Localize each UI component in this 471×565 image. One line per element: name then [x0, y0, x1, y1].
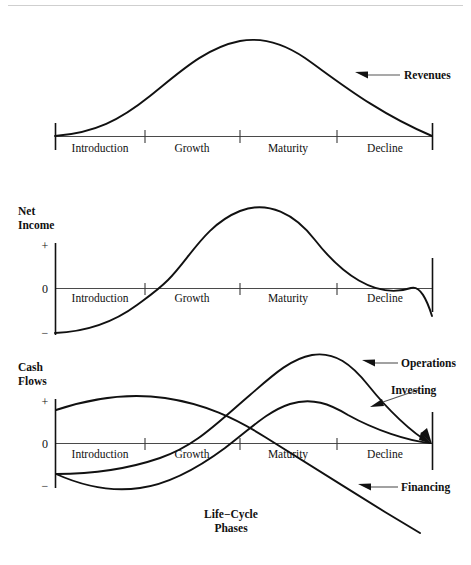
- net-income-mark-minus: −: [42, 326, 49, 340]
- cash-flows-axis-title-line1: Cash: [18, 361, 44, 373]
- investing-curve: [56, 401, 430, 489]
- revenues-callout-arrow-icon: [355, 71, 368, 78]
- revenues-phase-label-growth: Growth: [174, 142, 209, 154]
- figure-caption-line2: Phases: [214, 522, 248, 534]
- cash-flows-phase-label-growth: Growth: [174, 448, 209, 460]
- net-income-curve: [55, 207, 432, 333]
- net-income-phase-label-maturity: Maturity: [268, 292, 308, 305]
- series-label-financing: Financing: [401, 481, 450, 494]
- panel-revenues: Introduction Growth Maturity Decline Rev…: [55, 40, 451, 155]
- revenues-phase-label-introduction: Introduction: [72, 142, 129, 154]
- net-income-phase-label-growth: Growth: [174, 292, 209, 304]
- series-label-revenues: Revenues: [404, 69, 451, 81]
- net-income-axis-title-line1: Net: [18, 205, 35, 217]
- series-label-investing: Investing: [391, 384, 437, 397]
- figure-stage: Introduction Growth Maturity Decline Rev…: [0, 0, 471, 565]
- panel-cash-flows: Cash Flows + 0 − Introduction Growth Mat…: [18, 354, 456, 533]
- revenues-phase-label-decline: Decline: [367, 142, 403, 154]
- net-income-mark-plus: +: [42, 239, 49, 253]
- net-income-mark-zero: 0: [42, 282, 48, 296]
- operations-callout-arrow-icon: [362, 359, 375, 366]
- panel-net-income: Net Income + 0 − Introduction Growth Mat…: [18, 205, 433, 340]
- cash-flows-mark-zero: 0: [42, 437, 48, 451]
- series-label-operations: Operations: [401, 357, 456, 370]
- net-income-phase-label-introduction: Introduction: [72, 292, 129, 304]
- revenues-phase-label-maturity: Maturity: [268, 142, 308, 155]
- cash-flows-phase-label-decline: Decline: [367, 448, 403, 460]
- figure-caption-line1: Life−Cycle: [204, 508, 258, 521]
- net-income-phase-label-decline: Decline: [367, 292, 403, 304]
- revenues-curve: [55, 40, 432, 136]
- cash-flows-phase-label-maturity: Maturity: [268, 448, 308, 461]
- figure-caption-group: Life−Cycle Phases: [204, 508, 258, 534]
- cash-flows-phase-label-introduction: Introduction: [72, 448, 129, 460]
- cash-flows-axis-title-line2: Flows: [18, 375, 47, 387]
- life-cycle-phases-figure: Introduction Growth Maturity Decline Rev…: [0, 0, 471, 565]
- investing-callout-arrow-icon: [370, 399, 384, 407]
- financing-callout-arrow-icon: [358, 483, 371, 490]
- net-income-axis-title-line2: Income: [18, 219, 54, 231]
- cash-flows-mark-minus: −: [42, 479, 49, 493]
- cash-flows-mark-plus: +: [42, 395, 49, 409]
